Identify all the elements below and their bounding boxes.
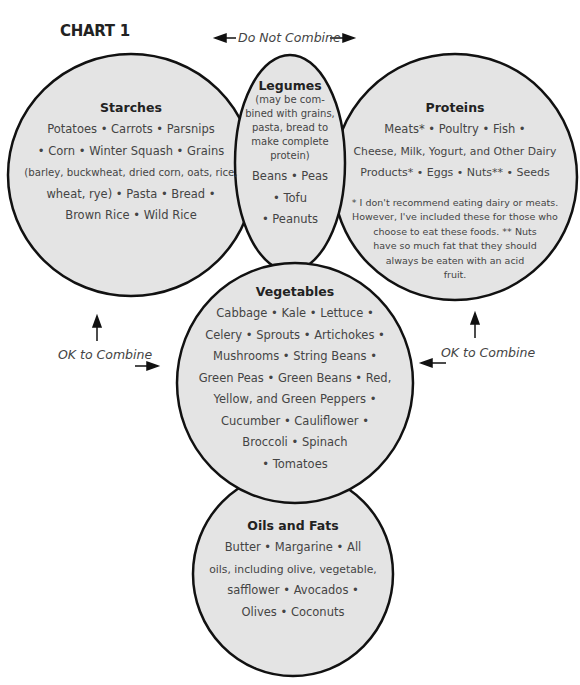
do-not-combine-label: Do Not Combine [238,30,341,45]
legumes-note-line: make complete [240,135,340,149]
oils-items: Butter • Margarine • All oils, including… [200,537,386,623]
proteins-line: Products* • Eggs • Nuts** • Seeds [345,162,565,184]
footnote-line: choose to eat these foods. ** Nuts [345,225,565,240]
oils-group: Oils and Fats Butter • Margarine • All o… [200,518,386,623]
starches-line: (barley, buckwheat, dried corn, oats, ri… [20,162,242,184]
oils-heading: Oils and Fats [200,518,386,533]
vegetables-group: Vegetables Cabbage • Kale • Lettuce • Ce… [190,284,400,475]
proteins-line: Meats* • Poultry • Fish • [345,119,565,141]
starches-line: • Corn • Winter Squash • Grains [20,141,242,163]
chart-title: CHART 1 [60,22,130,40]
footnote-line: However, I've included these for those w… [345,210,565,225]
legumes-line: • Tofu [240,188,340,210]
ok-to-combine-left-label: OK to Combine [58,347,152,362]
footnote-line: have so much fat that they should [345,239,565,254]
vegetables-line: • Tomatoes [190,454,400,476]
starches-line: Brown Rice • Wild Rice [20,205,242,227]
oils-line: Butter • Margarine • All [200,537,386,559]
starches-items: Potatoes • Carrots • Parsnips • Corn • W… [20,119,242,227]
vegetables-line: Celery • Sprouts • Artichokes • [190,325,400,347]
footnote-line: * I don't recommend eating dairy or meat… [345,196,565,211]
legumes-note: (may be com- bined with grains, pasta, b… [240,93,340,163]
vegetables-line: Mushrooms • String Beans • [190,346,400,368]
vegetables-line: Broccoli • Spinach [190,432,400,454]
vegetables-items: Cabbage • Kale • Lettuce • Celery • Spro… [190,303,400,475]
footnote-line: fruit. [345,268,565,283]
legumes-note-line: bined with grains, [240,107,340,121]
legumes-items: Beans • Peas • Tofu • Peanuts [240,166,340,231]
vegetables-line: Cabbage • Kale • Lettuce • [190,303,400,325]
oils-line: oils, including olive, vegetable, [200,559,386,581]
starches-heading: Starches [20,100,242,115]
legumes-line: • Peanuts [240,209,340,231]
footnote-line: always be eaten with an acid [345,254,565,269]
legumes-note-line: protein) [240,149,340,163]
proteins-footnote: * I don't recommend eating dairy or meat… [345,196,565,283]
legumes-group: Legumes (may be com- bined with grains, … [240,78,340,231]
oils-line: Olives • Coconuts [200,602,386,624]
oils-line: safflower • Avocados • [200,580,386,602]
ok-to-combine-right-label: OK to Combine [441,345,535,360]
proteins-group: Proteins Meats* • Poultry • Fish • Chees… [345,100,565,283]
starches-line: Potatoes • Carrots • Parsnips [20,119,242,141]
legumes-heading: Legumes [240,78,340,93]
legumes-note-line: (may be com- [240,93,340,107]
proteins-items: Meats* • Poultry • Fish • Cheese, Milk, … [345,119,565,184]
vegetables-line: Green Peas • Green Beans • Red, [190,368,400,390]
legumes-note-line: pasta, bread to [240,121,340,135]
vegetables-heading: Vegetables [190,284,400,299]
starches-line: wheat, rye) • Pasta • Bread • [20,184,242,206]
proteins-line: Cheese, Milk, Yogurt, and Other Dairy [345,141,565,163]
starches-group: Starches Potatoes • Carrots • Parsnips •… [20,100,242,227]
vegetables-line: Yellow, and Green Peppers • [190,389,400,411]
proteins-heading: Proteins [345,100,565,115]
legumes-line: Beans • Peas [240,166,340,188]
vegetables-line: Cucumber • Cauliflower • [190,411,400,433]
